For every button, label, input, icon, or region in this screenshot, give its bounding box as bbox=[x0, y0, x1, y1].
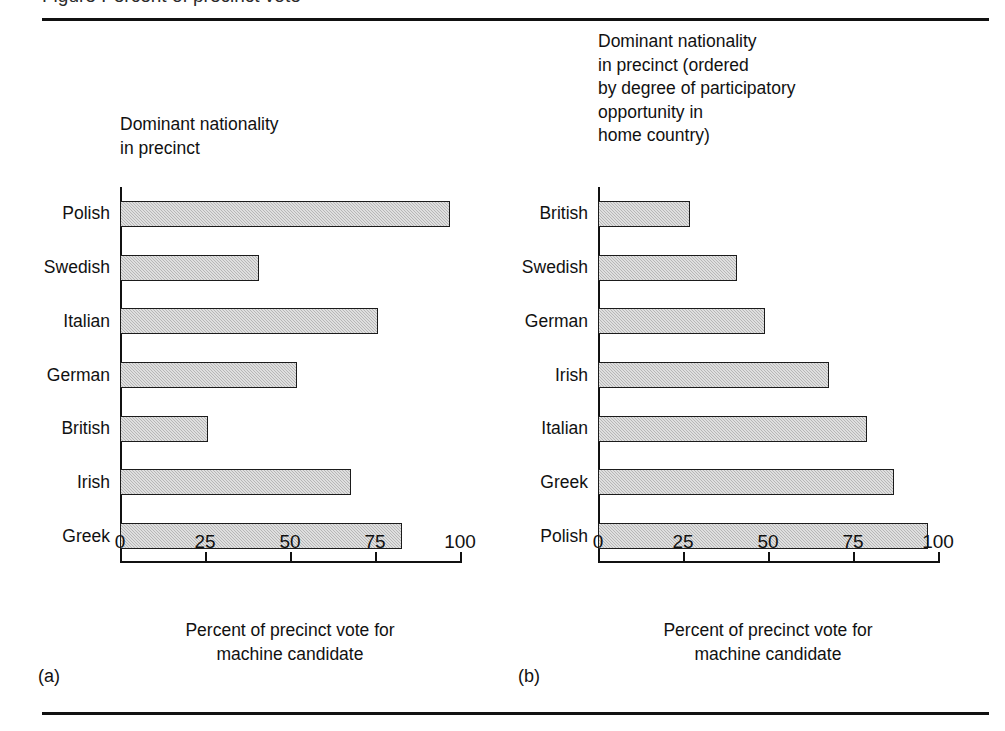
panel-a-cat-label-2: Italian bbox=[63, 311, 110, 332]
tick-mark-100 bbox=[460, 552, 462, 563]
tick-mark-50 bbox=[768, 552, 770, 563]
table-row: Swedish bbox=[598, 241, 958, 295]
tick-mark-0 bbox=[598, 552, 600, 563]
tick-label-0: 0 bbox=[593, 531, 604, 553]
tick-label-100: 100 bbox=[444, 531, 476, 553]
panel-a-cat-label-6: Greek bbox=[62, 526, 110, 547]
panel-a-cat-label-4: British bbox=[61, 418, 110, 439]
panel-a-axis-title: Percent of precinct vote for machine can… bbox=[120, 618, 460, 666]
panel-b-bar-0 bbox=[598, 201, 690, 227]
panel-b-header: Dominant nationality in precinct (ordere… bbox=[598, 30, 795, 148]
panel-b-bar-1 bbox=[598, 255, 737, 281]
panel-b-cat-label-3: Irish bbox=[555, 365, 588, 386]
panel-a-bar-rows: Polish Swedish Italian German British Ir… bbox=[120, 187, 480, 563]
panel-a-cat-label-3: German bbox=[47, 365, 110, 386]
tick-label-75: 75 bbox=[842, 531, 863, 553]
tick-label-100: 100 bbox=[922, 531, 954, 553]
table-row: British bbox=[120, 402, 480, 456]
cut-off-caption: Figure Percent of precinct vote bbox=[42, 0, 989, 15]
panel-b-bar-4 bbox=[598, 416, 867, 442]
tick-mark-25 bbox=[683, 552, 685, 563]
panel-b-ticks: 0255075100 bbox=[598, 523, 938, 563]
panel-b-axis-title: Percent of precinct vote for machine can… bbox=[598, 618, 938, 666]
tick-label-0: 0 bbox=[115, 531, 126, 553]
tick-mark-75 bbox=[853, 552, 855, 563]
tick-label-25: 25 bbox=[194, 531, 215, 553]
panel-b-cat-label-2: German bbox=[525, 311, 588, 332]
panel-a-tag: (a) bbox=[38, 666, 60, 687]
tick-label-75: 75 bbox=[364, 531, 385, 553]
panel-b-cat-label-6: Polish bbox=[540, 526, 588, 547]
tick-label-50: 50 bbox=[279, 531, 300, 553]
panel-b-bar-2 bbox=[598, 308, 765, 334]
panel-a-cat-label-5: Irish bbox=[77, 472, 110, 493]
panel-a-bar-4 bbox=[120, 416, 208, 442]
panel-a-bar-2 bbox=[120, 308, 378, 334]
panel-a-bar-0 bbox=[120, 201, 450, 227]
panel-a-bar-5 bbox=[120, 469, 351, 495]
table-row: German bbox=[598, 294, 958, 348]
panel-a-plot-area: Polish Swedish Italian German British Ir… bbox=[120, 173, 480, 563]
table-row: Greek bbox=[598, 456, 958, 510]
panel-b-bar-5 bbox=[598, 469, 894, 495]
table-row: Irish bbox=[120, 456, 480, 510]
tick-mark-25 bbox=[205, 552, 207, 563]
panel-b-cat-label-1: Swedish bbox=[522, 257, 588, 278]
figure-rule-bottom bbox=[42, 712, 989, 715]
panel-a-cat-label-0: Polish bbox=[62, 203, 110, 224]
tick-mark-0 bbox=[120, 552, 122, 563]
panel-a-bar-1 bbox=[120, 255, 259, 281]
table-row: British bbox=[598, 187, 958, 241]
panel-b-cat-label-4: Italian bbox=[541, 418, 588, 439]
panel-b-bar-3 bbox=[598, 362, 829, 388]
panel-a-cat-label-1: Swedish bbox=[44, 257, 110, 278]
table-row: Italian bbox=[598, 402, 958, 456]
table-row: Polish bbox=[120, 187, 480, 241]
panel-a-bar-3 bbox=[120, 362, 297, 388]
panel-b-bar-rows: British Swedish German Irish Italian Gre… bbox=[598, 187, 958, 563]
tick-mark-100 bbox=[938, 552, 940, 563]
tick-mark-50 bbox=[290, 552, 292, 563]
panel-b-tag: (b) bbox=[518, 666, 540, 687]
panel-b-plot-area: British Swedish German Irish Italian Gre… bbox=[598, 173, 958, 563]
panel-b-cat-label-0: British bbox=[539, 203, 588, 224]
panel-b-cat-label-5: Greek bbox=[540, 472, 588, 493]
tick-mark-75 bbox=[375, 552, 377, 563]
chart-panel-a: Dominant nationality in precinct Polish … bbox=[20, 18, 520, 712]
cut-off-caption-text: Figure Percent of precinct vote bbox=[42, 0, 989, 7]
table-row: Swedish bbox=[120, 241, 480, 295]
tick-label-50: 50 bbox=[757, 531, 778, 553]
table-row: Irish bbox=[598, 348, 958, 402]
table-row: Italian bbox=[120, 294, 480, 348]
tick-label-25: 25 bbox=[672, 531, 693, 553]
panel-a-header: Dominant nationality in precinct bbox=[120, 113, 279, 160]
panel-a-ticks: 0255075100 bbox=[120, 523, 460, 563]
chart-panel-b: Dominant nationality in precinct (ordere… bbox=[508, 18, 1003, 712]
table-row: German bbox=[120, 348, 480, 402]
